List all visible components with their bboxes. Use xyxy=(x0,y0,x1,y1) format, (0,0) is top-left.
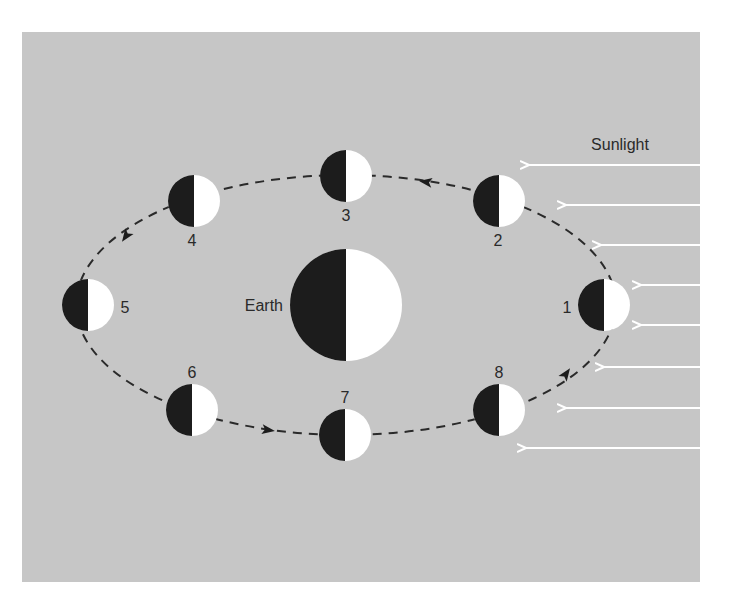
earth-label: Earth xyxy=(245,297,283,314)
moon-label-5: 5 xyxy=(121,299,130,316)
sunlight-label: Sunlight xyxy=(591,136,649,153)
orbit-direction-arrow-3 xyxy=(261,424,275,436)
earth-globe xyxy=(290,249,402,361)
moon-label-6: 6 xyxy=(188,364,197,381)
moon-label-4: 4 xyxy=(188,232,197,249)
moon-1 xyxy=(578,279,630,331)
moon-label-1: 1 xyxy=(563,299,572,316)
moon-2 xyxy=(473,175,525,227)
moon-label-8: 8 xyxy=(495,364,504,381)
moon-phases-diagram: Sunlight Earth 12345678 xyxy=(0,0,730,614)
moon-label-7: 7 xyxy=(341,389,350,406)
earth xyxy=(290,249,402,361)
moon-4 xyxy=(168,175,220,227)
moon-6 xyxy=(166,384,218,436)
moon-label-3: 3 xyxy=(342,207,351,224)
moon-3 xyxy=(320,150,372,202)
orbit-direction-arrow-2 xyxy=(118,228,134,244)
moon-label-2: 2 xyxy=(494,232,503,249)
orbit-direction-arrow-4 xyxy=(558,365,574,381)
moon-8 xyxy=(473,384,525,436)
moon-5 xyxy=(62,279,114,331)
moon-7 xyxy=(319,409,371,461)
